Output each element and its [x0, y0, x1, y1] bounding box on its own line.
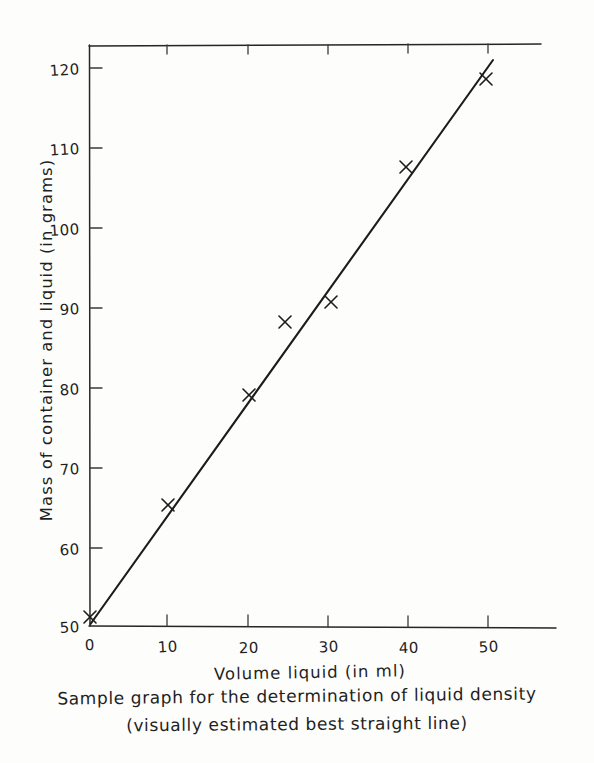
data-point-marker: [480, 73, 492, 85]
y-axis-line: [90, 45, 91, 626]
graph-page: 120 110 100 90 80 70 60 50 0 10 20 30 40…: [0, 0, 594, 763]
data-point-marker: [162, 499, 174, 511]
x-axis-title: Volume liquid (in ml): [214, 661, 406, 683]
x-tick-label-10: 10: [157, 637, 178, 656]
data-point-marker: [400, 161, 412, 173]
x-tick-label-0: 0: [84, 636, 95, 654]
y-tick-label-90: 90: [59, 300, 80, 319]
caption-line-1: Sample graph for the determination of li…: [57, 683, 536, 708]
y-axis-ticks: [90, 68, 102, 548]
y-axis-title: Mass of container and liquid (in grams): [37, 159, 56, 521]
y-tick-label-70: 70: [59, 460, 80, 479]
y-tick-label-60: 60: [59, 540, 80, 559]
x-tick-label-40: 40: [398, 639, 419, 658]
axis-frame: [89, 44, 556, 628]
x-axis-line: [89, 626, 556, 628]
y-tick-label-120: 120: [49, 60, 80, 80]
caption-line-2: (visually estimated best straight line): [126, 713, 468, 735]
y-tick-label-50: 50: [59, 618, 80, 637]
y-tick-label-80: 80: [59, 380, 80, 399]
x-tick-label-30: 30: [318, 637, 339, 656]
x-axis-ticks: [167, 615, 488, 627]
x-tick-label-50: 50: [478, 637, 499, 656]
y-tick-label-110: 110: [49, 140, 80, 160]
data-point-marker: [279, 316, 291, 328]
hand-drawn-chart: 120 110 100 90 80 70 60 50 0 10 20 30 40…: [0, 0, 594, 763]
data-point-marker: [325, 296, 337, 308]
x-tick-label-20: 20: [238, 639, 259, 658]
x-tick-labels: 0 10 20 30 40 50: [84, 636, 499, 658]
best-fit-line: [91, 60, 494, 624]
top-border-line: [89, 44, 541, 46]
